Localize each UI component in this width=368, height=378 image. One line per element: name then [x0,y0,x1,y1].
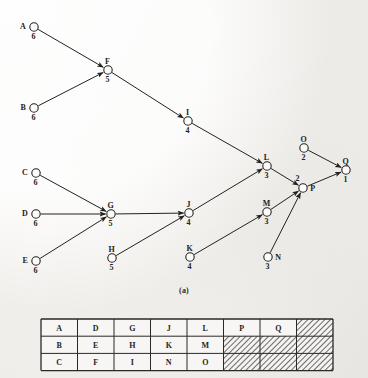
node-circle-D [32,210,40,218]
table-cell-blocked[interactable] [297,319,334,336]
edge-M-P [271,191,299,209]
node-circle-E [32,257,40,265]
node-weight-L: 3 [265,171,269,180]
table-cell-blocked[interactable] [297,336,334,353]
node-label-F: F [105,57,110,66]
node-J[interactable]: J4 [185,200,193,227]
node-weight-P: 2 [296,174,300,183]
node-G[interactable]: G5 [107,201,115,228]
node-M[interactable]: M3 [263,199,271,226]
node-weight-F: 5 [106,75,110,84]
node-weight-K: 4 [188,262,192,271]
table-cell-label: G [129,324,135,333]
table-cell-label: P [239,324,244,333]
node-weight-B: 6 [32,113,36,122]
edge-O-Q [308,150,341,167]
node-label-D: D [22,209,28,218]
edge-G-J [116,213,184,214]
node-label-Q: Q [342,157,348,166]
node-circle-O [300,144,308,152]
node-P[interactable]: P2 [296,174,316,193]
node-D[interactable]: D6 [22,209,40,227]
table-cell-label: J [167,324,171,333]
node-circle-K [186,253,194,261]
table-cell-label: F [93,358,98,367]
node-label-A: A [20,22,26,31]
node-circle-A [30,23,38,31]
node-N[interactable]: N3 [264,253,281,271]
node-weight-E: 6 [34,266,38,275]
node-weight-H: 5 [110,263,114,272]
node-L[interactable]: L3 [263,153,271,180]
node-weight-G: 5 [109,219,113,228]
node-A[interactable]: A6 [20,22,38,40]
table-cell-label: O [202,358,208,367]
table-cell-label: M [201,341,209,350]
edge-H-J [116,216,184,256]
edge-N-P [270,193,300,253]
node-label-C: C [22,168,28,177]
node-label-I: I [186,108,189,117]
node-label-B: B [20,103,26,112]
table-cell-blocked[interactable] [224,353,261,370]
node-label-H: H [108,245,115,254]
node-label-E: E [22,256,27,265]
node-label-G: G [107,201,113,210]
edge-F-I [112,73,183,119]
table-cell-label: H [129,341,136,350]
node-weight-D: 6 [34,219,38,228]
node-circle-C [32,169,40,177]
node-weight-Q: 1 [344,175,348,184]
node-weight-A: 6 [32,32,36,41]
node-F[interactable]: F5 [104,57,112,84]
node-K[interactable]: K4 [186,244,194,271]
edge-A-F [38,29,103,67]
node-layer: A6B6C6D6E6F5G5H5I4J4K4L3M3N3O2P2Q1 [20,22,350,274]
node-weight-O: 2 [302,153,306,162]
node-label-P: P [310,184,315,193]
node-circle-G [107,210,115,218]
table-cell-blocked[interactable] [297,353,334,370]
table-cell-blocked[interactable] [224,336,261,353]
node-Q[interactable]: Q1 [342,157,350,184]
node-weight-N: 3 [266,262,270,271]
node-I[interactable]: I4 [184,108,192,135]
table-cell-label: L [203,324,208,333]
table-cell-label: I [131,358,134,367]
edge-B-F [38,72,103,105]
node-circle-B [30,104,38,112]
table-cell-blocked[interactable] [260,353,297,370]
node-weight-C: 6 [34,178,38,187]
table-cell-label: D [93,324,99,333]
node-C[interactable]: C6 [22,168,40,186]
node-H[interactable]: H5 [108,245,116,272]
node-circle-F [104,66,112,74]
node-weight-M: 3 [265,217,269,226]
node-B[interactable]: B6 [20,103,38,121]
node-circle-Q [342,166,350,174]
node-label-M: M [263,199,271,208]
edge-J-L [193,169,262,211]
table-cell-label: Q [275,324,281,333]
table-cell-label: K [166,341,173,350]
node-circle-L [263,162,271,170]
node-circle-M [263,208,271,216]
table-cell-label: A [56,324,62,333]
table-cell-label: B [57,341,63,350]
schedule-table: ADGJLPQBEHKMCFINO [0,310,368,378]
node-label-J: J [187,200,191,209]
table-cell-blocked[interactable] [260,336,297,353]
node-label-N: N [275,253,281,262]
node-E[interactable]: E6 [22,256,40,274]
node-circle-N [264,253,272,261]
node-label-O: O [300,135,306,144]
node-circle-J [185,209,193,217]
table-cell-label: E [93,341,98,350]
node-O[interactable]: O2 [300,135,308,162]
table-cell-label: C [56,358,62,367]
table-cell-label: N [166,358,172,367]
edge-E-G [40,217,106,259]
edge-L-P [271,169,298,186]
edge-I-L [192,123,262,163]
edge-C-G [40,175,106,211]
